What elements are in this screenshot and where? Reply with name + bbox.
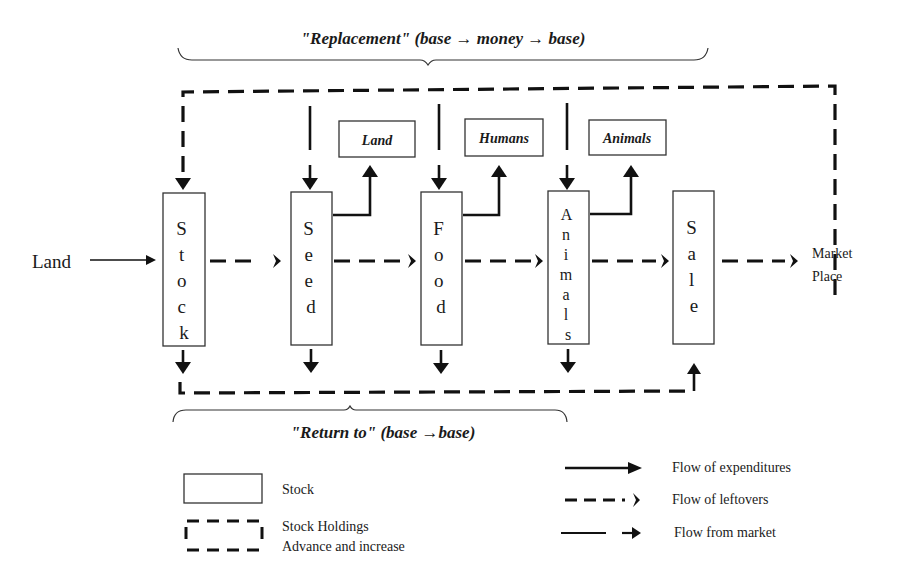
svg-text:Advance and increase: Advance and increase bbox=[282, 539, 405, 554]
replacement-brace bbox=[178, 48, 708, 65]
to-sale-up-arrow bbox=[687, 363, 701, 391]
sale-to-market-leftover-arrow bbox=[722, 254, 798, 268]
svg-text:Animals: Animals bbox=[602, 131, 652, 146]
market-to-seed-arrow bbox=[302, 106, 318, 190]
animals-to-animals-arrow bbox=[590, 165, 639, 214]
animals-down-arrow bbox=[560, 349, 576, 373]
animals-to-sale-leftover-arrow bbox=[592, 254, 669, 268]
stock-box-seed: S e e d bbox=[291, 192, 332, 345]
seed-to-land-arrow bbox=[333, 165, 378, 215]
output-land-box: Land bbox=[339, 121, 415, 157]
land-to-stock-arrow bbox=[90, 255, 156, 265]
output-humans-box: Humans bbox=[465, 119, 543, 156]
return-to-brace bbox=[173, 406, 567, 422]
svg-text:Land: Land bbox=[361, 133, 393, 148]
market-return-dashed-line bbox=[183, 86, 835, 295]
svg-text:Flow of expenditures: Flow of expenditures bbox=[672, 460, 791, 475]
market-to-food-arrow bbox=[431, 104, 447, 190]
svg-text:Flow from market: Flow from market bbox=[674, 525, 776, 540]
return-to-label: "Return to" (base →base) bbox=[291, 423, 476, 442]
food-to-animals-leftover-arrow bbox=[465, 254, 543, 268]
legend-from-market: Flow from market bbox=[561, 525, 776, 540]
stock-box-food: F o o d bbox=[421, 192, 462, 345]
output-animals-box: Animals bbox=[589, 120, 666, 155]
stock-box-sale: S a l e bbox=[673, 191, 714, 344]
svg-text:Stock Holdings: Stock Holdings bbox=[282, 519, 369, 534]
svg-text:Stock: Stock bbox=[282, 482, 314, 497]
replacement-label: "Replacement" (base → money → base) bbox=[301, 29, 586, 48]
dashed-box-icon bbox=[186, 521, 262, 550]
stock-down-arrow bbox=[175, 350, 191, 374]
legend-leftovers: Flow of leftovers bbox=[565, 492, 768, 507]
stock-to-seed-leftover-arrow bbox=[210, 254, 281, 268]
flow-diagram: "Replacement" (base → money → base) Land… bbox=[0, 0, 907, 585]
svg-text:Humans: Humans bbox=[478, 131, 529, 146]
legend-stock-holdings: Stock Holdings Advance and increase bbox=[186, 519, 405, 554]
seed-down-arrow bbox=[303, 349, 319, 373]
market-to-animals-arrow bbox=[559, 103, 575, 190]
stock-box-stock: S t o c k bbox=[163, 193, 205, 346]
return-to-dashed-line bbox=[180, 382, 692, 393]
land-input-label: Land bbox=[32, 251, 72, 272]
stock-box-animals: A n i m a l s bbox=[548, 191, 589, 344]
food-down-arrow bbox=[433, 350, 449, 374]
food-to-humans-arrow bbox=[463, 165, 507, 215]
legend-stock: Stock bbox=[184, 474, 314, 503]
stock-in-arrowhead bbox=[175, 178, 191, 190]
seed-to-food-leftover-arrow bbox=[334, 254, 416, 268]
legend-expenditures: Flow of expenditures bbox=[565, 460, 791, 475]
svg-text:Flow of leftovers: Flow of leftovers bbox=[672, 492, 768, 507]
